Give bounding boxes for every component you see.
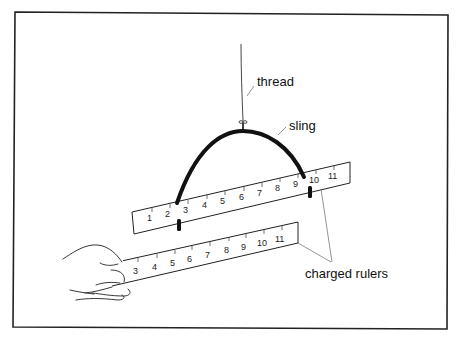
sling-leader-line xyxy=(278,127,286,135)
upper-ruler-number: 4 xyxy=(202,200,207,210)
lower-ruler-number: 10 xyxy=(257,238,267,248)
upper-ruler-number: 11 xyxy=(328,171,337,181)
sling-clip-right xyxy=(308,186,312,198)
upper-ruler-number: 6 xyxy=(239,192,244,202)
lower-ruler-number: 6 xyxy=(187,254,192,264)
upper-ruler-number: 9 xyxy=(293,179,298,189)
charged-rulers-label: charged rulers xyxy=(305,266,389,281)
thread-leader-line xyxy=(247,86,254,96)
charged-rulers-leader-lower xyxy=(298,243,331,262)
sling-clip-left xyxy=(177,219,181,231)
lower-ruler-number: 9 xyxy=(241,242,246,252)
upper-ruler-number: 2 xyxy=(165,209,170,219)
upper-ruler-number: 1 xyxy=(147,213,152,223)
lower-ruler-number: 8 xyxy=(224,245,229,255)
lower-ruler-number: 11 xyxy=(275,234,284,244)
lower-ruler-number: 7 xyxy=(205,250,210,260)
charged-rulers-diagram: thread 1 2 3 4 5 6 7 8 9 10 11 sling xyxy=(0,0,463,344)
thread-line xyxy=(241,44,243,121)
lower-ruler-number: 3 xyxy=(133,266,138,276)
upper-ruler: 1 2 3 4 5 6 7 8 9 10 11 xyxy=(132,162,350,234)
upper-ruler-number: 7 xyxy=(257,188,262,198)
charged-rulers-leader-upper xyxy=(321,189,332,262)
lower-ruler-number: 5 xyxy=(170,258,175,268)
upper-ruler-number: 10 xyxy=(309,175,319,185)
upper-ruler-number: 8 xyxy=(275,183,280,193)
upper-ruler-number: 5 xyxy=(220,196,225,206)
sling-label: sling xyxy=(289,118,316,133)
upper-ruler-number: 3 xyxy=(183,205,188,215)
thread-label: thread xyxy=(257,74,294,89)
lower-ruler-number: 4 xyxy=(152,262,157,272)
